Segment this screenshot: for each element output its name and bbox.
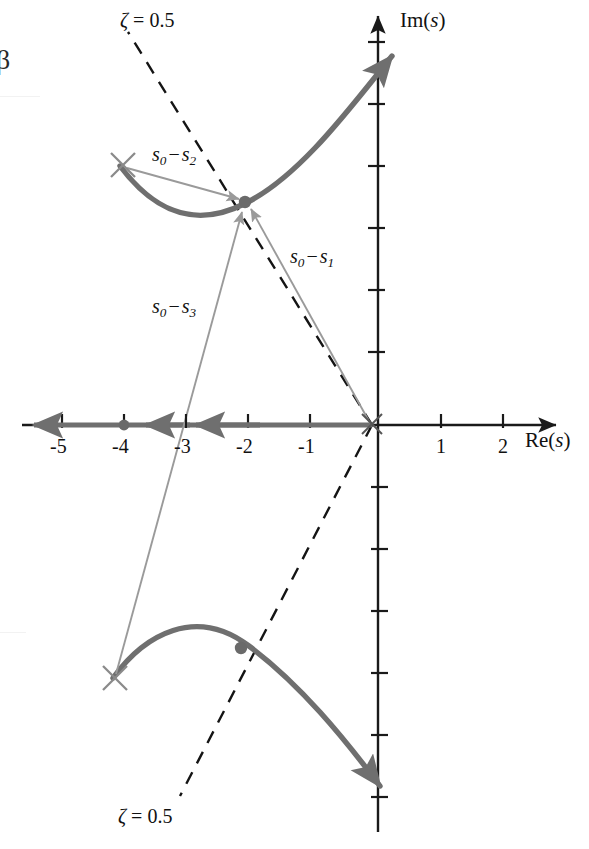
im-axis-suffix: ): [439, 8, 446, 32]
real-axis-title: Re(s): [525, 430, 571, 451]
vectors-group: [116, 168, 370, 674]
vec3-minus: −: [166, 295, 181, 317]
vec3-var-a: s: [152, 295, 160, 317]
zeta-value-upper: = 0.5: [133, 9, 174, 31]
vector-s0-minus-s1: [251, 209, 370, 423]
vector-label-s0-minus-s3: s0−s3: [152, 296, 196, 319]
test-point-s0-conjugate: [235, 642, 247, 654]
vec1-var-a: s: [290, 245, 298, 267]
vec1-minus: −: [304, 245, 319, 267]
im-axis-prefix: Im(: [400, 8, 430, 32]
re-axis-prefix: Re(: [525, 428, 555, 452]
im-axis-var: s: [430, 8, 438, 32]
pole-marker-s3: [103, 666, 127, 690]
page-edge-artifact-glyph: β: [0, 46, 10, 74]
zeta-value-lower: = 0.5: [131, 805, 172, 827]
re-axis-suffix: ): [564, 428, 571, 452]
vec2-minus: −: [166, 143, 181, 165]
vec1-sub-b: 1: [327, 255, 334, 270]
vector-label-s0-minus-s2: s0−s2: [152, 144, 196, 167]
real-axis-locus-group: [34, 420, 372, 431]
upper-branch-group: [120, 56, 392, 215]
re-axis-var: s: [555, 428, 563, 452]
x-tick-label-minus2: -2: [236, 436, 253, 456]
x-tick-label-2: 2: [498, 436, 508, 456]
zeta-label-lower: ζ = 0.5: [118, 806, 172, 826]
zeta-symbol-lower: ζ: [118, 805, 126, 827]
vec3-sub-b: 3: [189, 305, 196, 320]
zeta-symbol-upper: ζ: [120, 9, 128, 31]
real-axis-breakaway-dot: [119, 420, 130, 431]
vector-label-s0-minus-s1: s0−s1: [290, 246, 334, 269]
pole-markers-group: [103, 153, 382, 690]
x-tick-label-minus3: -3: [174, 436, 191, 456]
zeta-line-upper: [128, 32, 372, 425]
zeta-label-upper: ζ = 0.5: [120, 10, 174, 30]
test-point-s0: [239, 196, 251, 208]
x-tick-label-minus4: -4: [112, 436, 129, 456]
plot-canvas: [0, 0, 589, 849]
imaginary-axis-title: Im(s): [400, 10, 446, 31]
x-tick-label-minus5: -5: [50, 436, 67, 456]
x-tick-label-1: 1: [436, 436, 446, 456]
vec2-sub-b: 2: [189, 153, 196, 168]
root-locus-figure: β ζ = 0.5 ζ = 0.5 s0−s2 s0−s1 s0−s3 Im(s…: [0, 0, 589, 849]
vec2-var-a: s: [152, 143, 160, 165]
upper-locus-branch: [120, 56, 392, 215]
x-tick-label-minus1: -1: [298, 436, 315, 456]
